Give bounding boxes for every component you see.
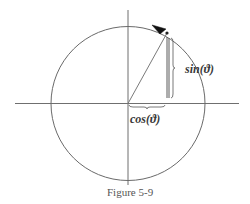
cosine-label: cos(ϑ) (130, 112, 160, 126)
sine-brace (171, 38, 175, 98)
radius-line (128, 33, 167, 104)
cosine-brace (129, 105, 165, 109)
radius-tip-point (165, 31, 168, 34)
figure-caption: Figure 5-9 (107, 186, 154, 198)
unit-circle-figure: sin(ϑ) cos(ϑ) Figure 5-9 (0, 0, 250, 204)
sine-label: sin(ϑ) (184, 62, 214, 76)
rotation-arrowhead-icon (152, 25, 166, 34)
